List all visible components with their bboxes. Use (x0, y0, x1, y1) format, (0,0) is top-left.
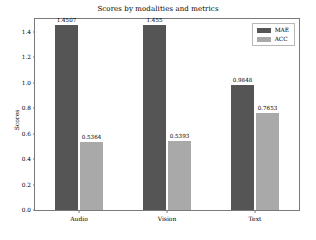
legend-swatch-icon (257, 37, 271, 42)
y-axis-tick-mark (33, 184, 36, 185)
plot-inner: 0.00.20.40.60.81.01.21.4 AudioVisionText… (35, 19, 299, 210)
bar-text-mae[interactable] (231, 85, 254, 210)
y-axis-label: Scores (13, 110, 20, 131)
bar-value-label: 0.5393 (168, 133, 191, 139)
legend-label: ACC (275, 36, 288, 42)
legend-item-acc[interactable]: ACC (257, 36, 289, 42)
y-axis-tick-label: 1.2 (22, 54, 31, 60)
bar-value-label: 1.4507 (55, 17, 78, 23)
legend-item-mae[interactable]: MAE (257, 27, 289, 33)
y-axis-tick-mark (33, 133, 36, 134)
bar-value-label: 0.9848 (231, 77, 254, 83)
chart-figure: Scores by modalities and metrics Scores … (0, 0, 316, 240)
bar-text-acc[interactable] (256, 113, 279, 210)
legend-label: MAE (275, 27, 289, 33)
bar-value-label: 1.455 (143, 17, 166, 23)
legend-swatch-icon (257, 28, 271, 33)
x-axis-tick-mark (255, 210, 256, 213)
y-axis-tick-label: 1.4 (22, 29, 31, 35)
y-axis-tick-mark (33, 31, 36, 32)
x-axis-tick-label: Audio (70, 215, 88, 222)
y-axis-tick-label: 0.0 (22, 207, 31, 213)
x-axis-tick-label: Vision (158, 215, 177, 222)
x-axis-tick-label: Text (249, 215, 262, 222)
chart-title: Scores by modalities and metrics (0, 5, 316, 13)
y-axis-tick-label: 0.4 (22, 156, 31, 162)
chart-legend: MAEACC (252, 23, 295, 46)
bar-vision-mae[interactable] (143, 25, 166, 210)
x-axis-tick-mark (167, 210, 168, 213)
bar-vision-acc[interactable] (168, 141, 191, 210)
y-axis-tick-mark (33, 210, 36, 211)
y-axis-tick-label: 1.0 (22, 80, 31, 86)
y-axis-tick-mark (33, 57, 36, 58)
y-axis-tick-mark (33, 108, 36, 109)
y-axis-tick-label: 0.2 (22, 182, 31, 188)
y-axis-tick-label: 0.6 (22, 131, 31, 137)
bar-value-label: 0.7653 (256, 105, 279, 111)
bar-value-label: 0.5364 (80, 134, 103, 140)
plot-area: 0.00.20.40.60.81.01.21.4 AudioVisionText… (34, 18, 300, 211)
y-axis-tick-mark (33, 82, 36, 83)
y-axis-tick-label: 0.8 (22, 105, 31, 111)
bar-audio-acc[interactable] (80, 142, 103, 210)
y-axis-tick-mark (33, 159, 36, 160)
x-axis-tick-mark (79, 210, 80, 213)
bar-audio-mae[interactable] (55, 25, 78, 210)
